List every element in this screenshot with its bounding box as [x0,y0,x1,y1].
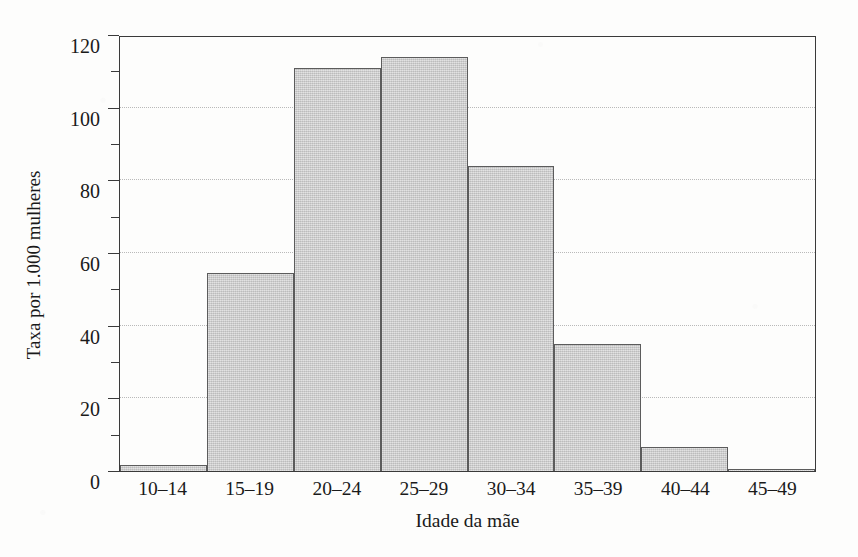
y-axis-tick-labels: 020406080100120 [0,36,100,472]
y-tick-major-0 [108,471,119,472]
y-tick-minor-70 [111,217,119,218]
bar-40-44 [641,447,728,471]
x-tick-label: 25–29 [380,478,467,500]
bar-cell [554,37,641,471]
bar-cell [381,37,468,471]
x-tick-label: 45–49 [729,478,816,500]
bar-cell [294,37,381,471]
y-tick-major-20 [108,398,119,399]
y-tick-major-60 [108,253,119,254]
x-axis-tick-labels: 10–1415–1920–2425–2930–3435–3940–4445–49 [119,478,816,500]
bar-cell [641,37,728,471]
bar-cell [207,37,294,471]
y-tick-minor-90 [111,144,119,145]
x-axis-title: Idade da mãe [119,510,816,532]
x-tick-label: 15–19 [206,478,293,500]
y-tick-minor-110 [111,71,119,72]
y-axis-title: Taxa por 1.000 mulheres [23,145,45,385]
y-tick-major-40 [108,326,119,327]
bar-series [120,37,815,471]
y-tick-minor-10 [111,435,119,436]
plot-area [119,36,816,472]
bar-cell [468,37,555,471]
y-tick-major-80 [108,180,119,181]
x-tick-label: 35–39 [555,478,642,500]
bar-30-34 [468,166,555,471]
y-tick-minor-50 [111,289,119,290]
y-tick-minor-30 [111,362,119,363]
bar-25-29 [381,57,468,471]
y-tick-major-100 [108,108,119,109]
bar-10-14 [120,465,207,471]
x-tick-label: 20–24 [293,478,380,500]
x-tick-label: 40–44 [642,478,729,500]
figure-bar-chart-birth-rate-by-mother-age: 020406080100120 Taxa por 1.000 mulheres … [0,0,858,557]
bar-20-24 [294,68,381,471]
bar-35-39 [554,344,641,471]
bar-15-19 [207,273,294,471]
x-tick-label: 30–34 [468,478,555,500]
y-axis-ticks [108,36,119,472]
x-tick-label: 10–14 [119,478,206,500]
y-tick-major-120 [108,35,119,36]
bar-cell [120,37,207,471]
bar-45-49 [728,469,815,471]
bar-cell [728,37,815,471]
